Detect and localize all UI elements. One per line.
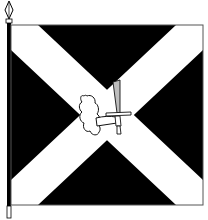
flag-illustration: Flag with saltire and cloud-arm holding … bbox=[0, 0, 208, 220]
flagpole bbox=[7, 22, 11, 218]
spearhead-finial-icon bbox=[5, 1, 13, 23]
